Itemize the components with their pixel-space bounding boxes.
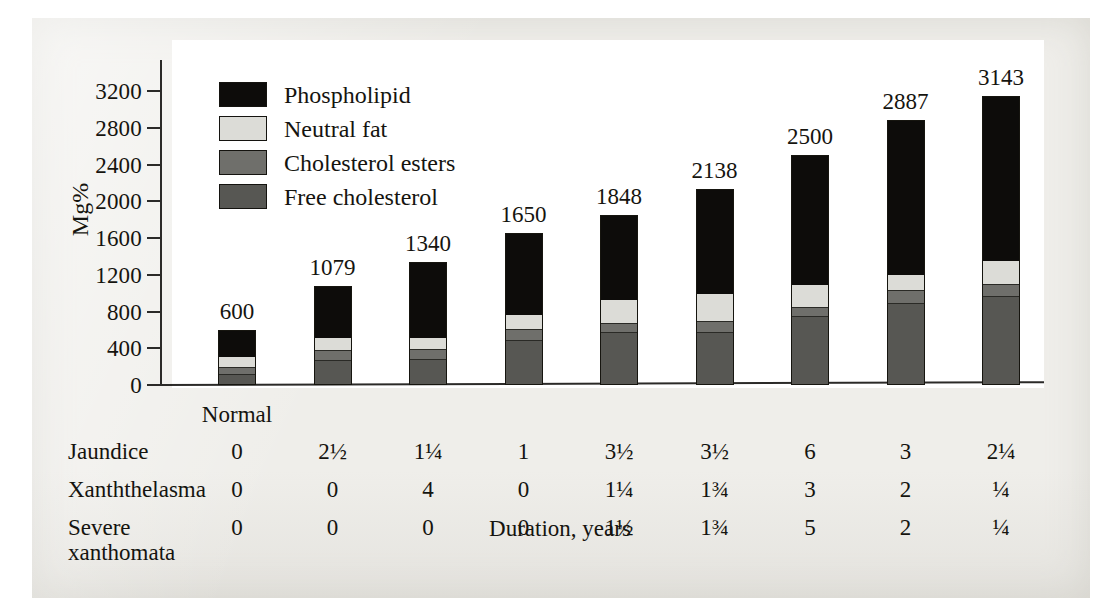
bar-segment-cholesterol-esters [410,350,446,360]
y-axis-tick [147,384,161,386]
stacked-bar [218,330,256,385]
bar-group: 2500 [791,0,829,385]
table-row-label: Xanththelasma [68,478,206,503]
bar-segment-phospholipid [410,263,446,338]
bar-segment-free-cholesterol [410,360,446,384]
table-cell: 1 [476,440,572,463]
bar-segment-neutral-fat [888,275,924,290]
bar-group: 1340 [409,0,447,385]
stacked-bar [505,233,543,385]
stacked-bar [791,155,829,385]
table-cell: 0 [189,478,285,501]
bar-segment-neutral-fat [219,357,255,367]
stacked-bar [314,286,352,385]
table-cell: 0 [476,478,572,501]
bar-group: 2887 [887,0,925,385]
bar-segment-free-cholesterol [601,333,637,384]
bar-segment-free-cholesterol [219,375,255,384]
bar-segment-neutral-fat [506,315,542,330]
bar-group: 1848 [600,0,638,385]
table-cell: 0 [285,478,381,501]
bar-segment-cholesterol-esters [888,291,924,305]
stacked-bar [409,262,447,385]
bar-value-label: 2887 [841,90,971,113]
bar-segment-free-cholesterol [983,297,1019,384]
bar-segment-cholesterol-esters [697,322,733,333]
bar-segment-cholesterol-esters [506,330,542,341]
bar-segment-neutral-fat [601,300,637,323]
table-cell: 1¼ [380,440,476,463]
bar-segment-neutral-fat [697,294,733,322]
table-cell: 6 [762,440,858,463]
table-cell: 3½ [571,440,667,463]
table-cell: 2 [858,478,954,501]
bar-segment-cholesterol-esters [601,324,637,333]
y-axis-tick [147,274,161,276]
bar-group: 1650 [505,0,543,385]
stacked-bar [982,96,1020,385]
bar-group: 600 [218,0,256,385]
table-cell: 2¼ [953,440,1049,463]
bar-segment-neutral-fat [983,261,1019,286]
table-cell: ¼ [953,478,1049,501]
bar-segment-free-cholesterol [315,361,351,384]
stacked-bar [887,120,925,385]
bar-segment-cholesterol-esters [983,285,1019,297]
bar-segment-free-cholesterol [792,317,828,384]
y-axis-tick [147,347,161,349]
bar-value-label: 2138 [650,159,780,182]
x-tick-label-normal: Normal [142,402,332,428]
bar-segment-phospholipid [697,190,733,294]
y-axis-tick [147,164,161,166]
table-cell: 3½ [667,440,763,463]
y-axis-tick [147,127,161,129]
bar-segment-cholesterol-esters [219,368,255,376]
y-axis-tick [147,90,161,92]
bar-segment-phospholipid [315,287,351,338]
chart-page: 3200280024002000160012008004000 Mg% Phos… [0,0,1120,616]
table-cell: 3 [858,440,954,463]
bar-segment-phospholipid [506,234,542,315]
table-cell: 0 [189,440,285,463]
bar-segment-neutral-fat [410,338,446,351]
bar-segment-free-cholesterol [888,304,924,384]
stacked-bar [696,189,734,385]
table-cell: 1¾ [667,478,763,501]
bar-value-label: 1079 [268,256,398,279]
y-axis-tick [147,237,161,239]
table-cell: 2½ [285,440,381,463]
bar-segment-cholesterol-esters [792,308,828,317]
x-axis-title: Duration, years [0,516,1120,542]
stacked-bar [600,215,638,385]
bar-segment-free-cholesterol [697,333,733,384]
bar-value-label: 1848 [554,185,684,208]
y-axis-tick [147,200,161,202]
bar-segment-neutral-fat [792,285,828,309]
bar-segment-phospholipid [219,331,255,357]
bar-segment-phospholipid [983,97,1019,260]
bar-value-label: 1340 [363,232,493,255]
bar-group: 3143 [982,0,1020,385]
table-cell: 4 [380,478,476,501]
bar-value-label: 3143 [936,66,1066,89]
table-row-label: Jaundice [68,440,148,465]
bar-segment-phospholipid [888,121,924,275]
bar-value-label: 2500 [745,125,875,148]
bar-group: 2138 [696,0,734,385]
bar-group: 1079 [314,0,352,385]
table-cell: 3 [762,478,858,501]
bar-value-label: 600 [172,300,302,323]
y-axis-tick [147,311,161,313]
bar-segment-phospholipid [792,156,828,284]
bar-segment-neutral-fat [315,338,351,351]
bar-segment-cholesterol-esters [315,351,351,361]
bar-segment-phospholipid [601,216,637,300]
bar-segment-free-cholesterol [506,341,542,384]
table-cell: 1¼ [571,478,667,501]
